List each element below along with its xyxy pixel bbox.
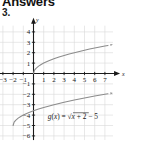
svg-text:−1: −1: [23, 80, 31, 88]
svg-text:2: 2: [27, 49, 31, 57]
svg-text:−2: −2: [9, 76, 17, 84]
coordinate-plane-svg: xy −3−2−112345674321−1−2−3−4−5−6 g(x) = …: [0, 0, 143, 151]
svg-text:−6: −6: [23, 132, 31, 140]
svg-text:6: 6: [93, 76, 97, 84]
graph-figure: xy −3−2−112345674321−1−2−3−4−5−6 g(x) = …: [0, 0, 143, 151]
svg-text:5: 5: [83, 76, 87, 84]
function-annotations: g(x) = √x + 2 − 5: [48, 112, 99, 121]
svg-text:7: 7: [103, 76, 107, 84]
svg-text:g(x) = √x + 2 − 5: g(x) = √x + 2 − 5: [48, 112, 99, 121]
svg-text:4: 4: [73, 76, 77, 84]
svg-text:x: x: [121, 71, 125, 77]
svg-text:−5: −5: [23, 122, 31, 130]
svg-text:y: y: [35, 17, 39, 23]
svg-text:3: 3: [62, 76, 66, 84]
svg-text:4: 4: [27, 28, 31, 36]
svg-text:−3: −3: [23, 101, 31, 109]
svg-text:1: 1: [42, 76, 46, 84]
answer-key-page: Answers 3. xy −3−2−112345674321−1−2−3−4−…: [0, 0, 143, 151]
svg-text:3: 3: [27, 39, 31, 47]
svg-text:−2: −2: [23, 91, 31, 99]
tick-labels: −3−2−112345674321−1−2−3−4−5−6: [0, 28, 107, 140]
svg-text:1: 1: [27, 60, 31, 68]
svg-text:−3: −3: [0, 76, 7, 84]
svg-text:2: 2: [52, 76, 56, 84]
